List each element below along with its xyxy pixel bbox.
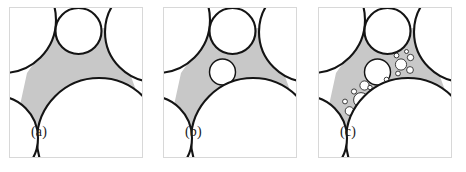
panel-c: (c) xyxy=(318,7,452,158)
inscribed-circle-gen-4 xyxy=(351,89,356,94)
panel-c-label: (c) xyxy=(340,124,356,140)
large-circle-upper-middle xyxy=(56,8,102,54)
panel-c-artwork xyxy=(318,7,452,158)
large-circle-upper-middle xyxy=(210,8,256,54)
panel-a-graphic xyxy=(9,7,143,158)
panel-a-artwork xyxy=(9,7,143,158)
panel-b-graphic xyxy=(163,7,297,158)
inscribed-circle-gen-4 xyxy=(396,71,401,76)
panel-a-label: (a) xyxy=(31,124,47,140)
inscribed-circle-gen-4 xyxy=(343,99,348,104)
figure-canvas: (a) (b) (c) xyxy=(0,0,466,172)
panel-b-label: (b) xyxy=(185,124,202,140)
panel-a: (a) xyxy=(9,7,143,158)
large-circle-upper-middle xyxy=(365,8,411,54)
inscribed-circle-gen-2 xyxy=(395,59,406,70)
panel-b: (b) xyxy=(163,7,297,158)
panel-c-graphic xyxy=(318,7,452,158)
inscribed-circle-gen-4 xyxy=(405,50,409,54)
inscribed-circle-gen-3 xyxy=(407,54,413,60)
inscribed-circle-gen-3 xyxy=(407,67,414,74)
panel-b-artwork xyxy=(163,7,297,158)
